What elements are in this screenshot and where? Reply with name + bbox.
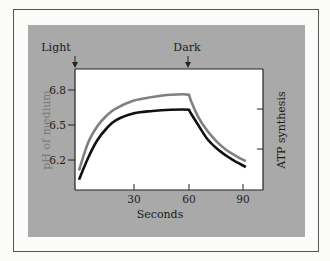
x-tick-label: 30 bbox=[127, 193, 140, 205]
dark-arrow-head-icon bbox=[185, 62, 191, 68]
plot-area bbox=[75, 69, 263, 190]
light-arrow-head-icon bbox=[72, 62, 78, 68]
light-annotation: Light bbox=[41, 41, 71, 54]
x-tick-label: 60 bbox=[182, 193, 195, 205]
y-axis-label-right: ATP synthesis bbox=[275, 91, 288, 170]
y-axis-label-left: pH of medium bbox=[40, 90, 53, 170]
x-axis-label: Seconds bbox=[137, 208, 184, 221]
x-tick-label: 90 bbox=[236, 193, 249, 205]
chart: 6.8 6.5 6.2 30 60 90 Seconds pH of mediu… bbox=[0, 0, 330, 261]
y-ticks-left: 6.8 6.5 6.2 bbox=[49, 84, 75, 166]
dark-annotation: Dark bbox=[173, 41, 201, 54]
